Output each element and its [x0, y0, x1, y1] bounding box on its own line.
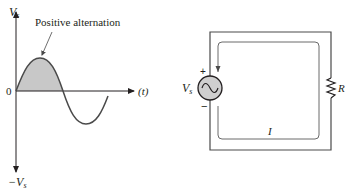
y-axis-top-label: Vs	[9, 5, 19, 20]
source-voltage-label: Vs	[182, 81, 192, 96]
time-axis-label: (t)	[138, 85, 149, 98]
source-minus-label: −	[201, 100, 207, 112]
series-circuit: + − Vs R I	[182, 32, 345, 150]
positive-alternation-label: Positive alternation	[35, 16, 121, 28]
current-direction-arrow-icon	[216, 66, 221, 72]
resistor-label: R	[337, 82, 345, 94]
source-plus-label: +	[200, 66, 206, 77]
y-axis-bottom-label: −Vs	[8, 175, 27, 190]
waveform-graph: Vs 0 −Vs (t) Positive alternation	[6, 5, 149, 190]
resistor-symbol	[327, 78, 335, 98]
sine-wave-and-circuit-diagram: Vs 0 −Vs (t) Positive alternation + − Vs…	[0, 0, 348, 191]
current-label: I	[267, 125, 273, 137]
origin-label: 0	[6, 85, 12, 97]
annotation-arrow	[42, 32, 52, 55]
